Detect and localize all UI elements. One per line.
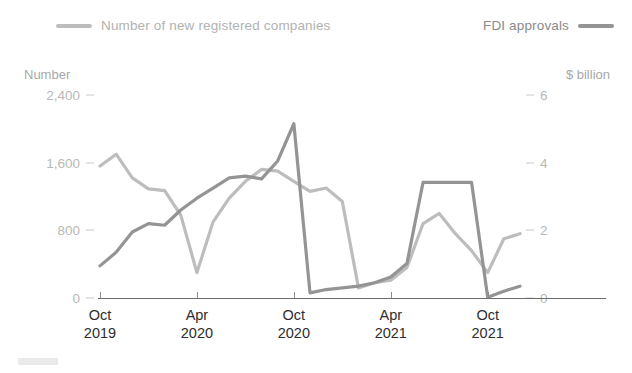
x-label-month: Apr xyxy=(375,306,407,324)
series-line-companies xyxy=(100,154,520,288)
x-axis-tick-label: Oct2021 xyxy=(472,306,504,342)
x-label-year: 2020 xyxy=(278,324,310,342)
x-axis-tick-mark xyxy=(197,292,198,298)
x-axis-tick-mark xyxy=(488,292,489,298)
x-label-year: 2020 xyxy=(181,324,213,342)
x-axis-tick-label: Oct2019 xyxy=(84,306,116,342)
x-label-year: 2019 xyxy=(84,324,116,342)
x-label-month: Oct xyxy=(472,306,504,324)
chart-container: Number of new registered companies FDI a… xyxy=(0,0,632,373)
x-axis-tick-label: Oct2020 xyxy=(278,306,310,342)
x-label-month: Oct xyxy=(84,306,116,324)
x-label-month: Oct xyxy=(278,306,310,324)
series-line-fdi xyxy=(100,124,520,298)
x-axis-tick-label: Apr2020 xyxy=(181,306,213,342)
x-axis-tick-mark xyxy=(100,292,101,298)
x-axis-tick-label: Apr2021 xyxy=(375,306,407,342)
x-axis-tick-mark xyxy=(391,292,392,298)
x-axis-line xyxy=(98,298,606,299)
x-axis-tick-mark xyxy=(294,292,295,298)
x-label-year: 2021 xyxy=(472,324,504,342)
x-label-year: 2021 xyxy=(375,324,407,342)
footer-mark xyxy=(18,358,58,365)
x-label-month: Apr xyxy=(181,306,213,324)
